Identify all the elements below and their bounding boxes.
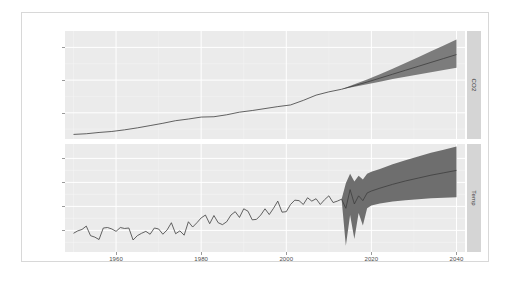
x-tick-label: 2000 — [279, 256, 293, 262]
x-tick-label: 1980 — [194, 256, 208, 262]
x-tick-mark — [116, 252, 117, 255]
x-tick-label: 2020 — [365, 256, 379, 262]
x-tick-mark — [456, 252, 457, 255]
x-tick-mark — [286, 252, 287, 255]
plot-card: CO2 Temp 50001000015000 0.00.51.01.5 196… — [21, 12, 489, 262]
x-tick-mark — [371, 252, 372, 255]
x-tick-label: 1960 — [109, 256, 123, 262]
x-axis: 19601980200020202040 — [22, 13, 488, 261]
x-tick-label: 2040 — [450, 256, 464, 262]
x-tick-mark — [201, 252, 202, 255]
forecast-plot: CO2 Temp 50001000015000 0.00.51.01.5 196… — [22, 13, 488, 261]
